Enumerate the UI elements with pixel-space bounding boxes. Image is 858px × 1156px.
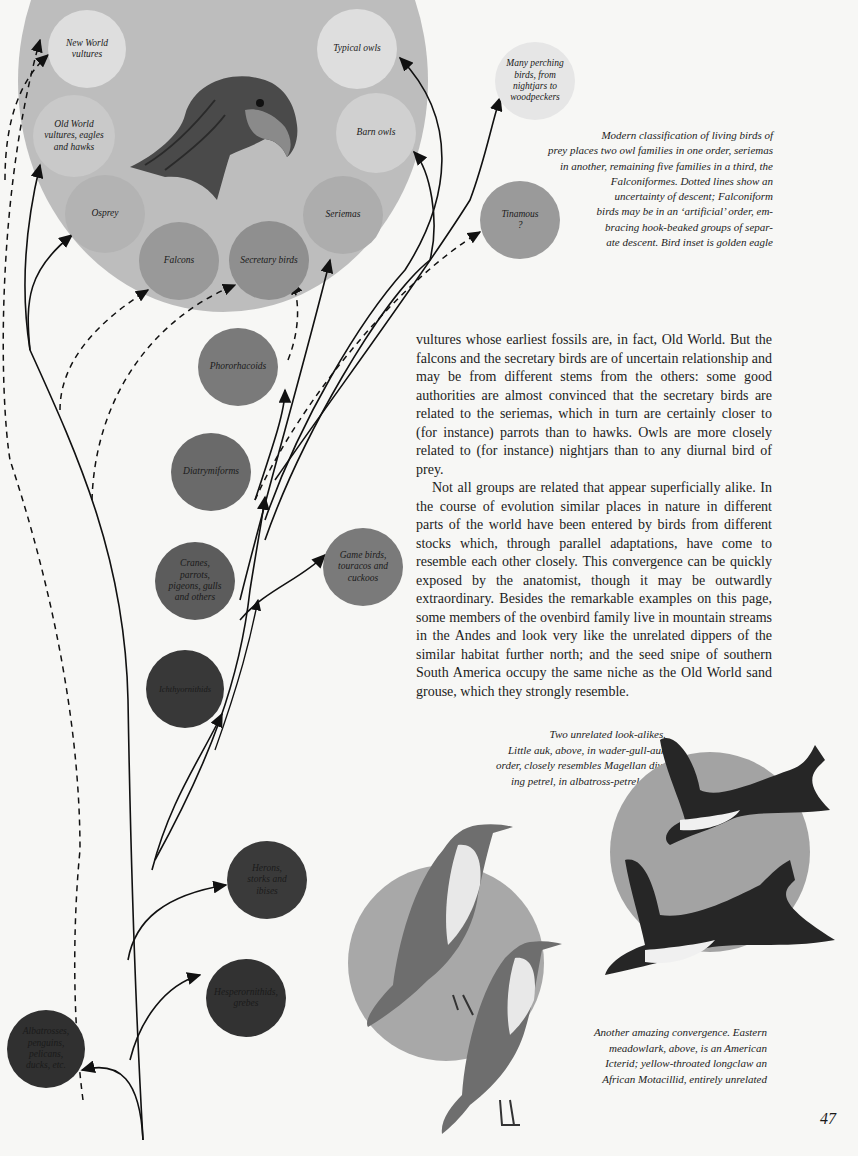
- node-osprey: Osprey: [65, 175, 145, 253]
- body-paragraph-1: vultures whose earliest fossils are, in …: [416, 331, 772, 479]
- look-alikes-caption: Two unrelated look-alikes. Little auk, a…: [416, 727, 666, 789]
- node-ichthyornithids: Ichthyornithids: [146, 650, 224, 728]
- node-seriemas: Seriemas: [303, 176, 383, 254]
- node-secretary-birds: Secretary birds: [229, 221, 309, 300]
- golden-eagle-illustration: [125, 55, 305, 205]
- page-number: 47: [820, 1110, 836, 1128]
- diving-petrel-illustration: [600, 840, 840, 980]
- node-falcons: Falcons: [139, 222, 219, 300]
- convergence-caption: Another amazing convergence. Eastern mea…: [522, 1025, 767, 1087]
- node-hesperornithids: Hesperornithids, grebes: [206, 959, 286, 1037]
- node-herons: Herons, storks and ibises: [227, 841, 307, 919]
- classification-caption: Modern classification of living birds of…: [518, 128, 773, 250]
- node-old-world-vultures: Old World vultures, eagles and hawks: [33, 95, 115, 177]
- body-paragraph-2: Not all groups are related that appear s…: [416, 479, 772, 701]
- node-diatrymiforms: Diatrymiforms: [171, 433, 251, 511]
- node-typical-owls: Typical owls: [317, 9, 397, 89]
- node-phororhacoids: Phororhacoids: [198, 328, 278, 406]
- little-auk-illustration: [640, 720, 850, 850]
- body-text: vultures whose earliest fossils are, in …: [416, 331, 772, 701]
- node-many-perching-birds: Many perching birds, from nightjars to w…: [495, 42, 575, 120]
- node-cranes-parrots: Cranes, parrots, pigeons, gulls and othe…: [155, 542, 235, 620]
- node-game-birds: Game birds, touracos and cuckoos: [323, 528, 403, 606]
- node-albatrosses: Albatrosses, penguins, pelicans, ducks, …: [7, 1010, 85, 1088]
- node-barn-owls: Barn owls: [336, 93, 416, 173]
- node-new-world-vultures: New World vultures: [48, 10, 126, 88]
